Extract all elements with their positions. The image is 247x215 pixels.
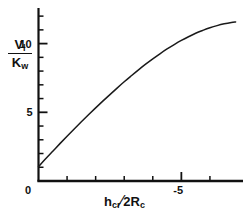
y-axis-major-ticks bbox=[39, 44, 48, 113]
x-axis-label: hcr⁄2Rc bbox=[104, 191, 145, 211]
x-axis-label-second-symbol: 2R bbox=[123, 194, 140, 209]
x-axis-label-second-subscript: c bbox=[140, 200, 145, 210]
y-tick-label-5: 5 bbox=[27, 106, 33, 118]
y-axis-label-fraction-bar bbox=[8, 53, 32, 54]
x-axis-label-slash: ⁄ bbox=[120, 192, 123, 212]
data-series-line bbox=[39, 22, 236, 167]
y-axis-label-denominator-subscript: w bbox=[21, 61, 28, 71]
x-axis-label-first-symbol: h bbox=[104, 194, 112, 209]
plot-canvas bbox=[0, 0, 247, 215]
y-axis-label-denominator-symbol: K bbox=[12, 55, 21, 70]
x-tick-label-neg5: -5 bbox=[173, 184, 183, 196]
y-axis-label-denominator: Kw bbox=[4, 56, 36, 69]
axis-lines bbox=[37, 8, 243, 182]
figure-container: Vl Kw hcr⁄2Rc 0510-5 bbox=[0, 0, 247, 215]
x-axis-label-first-subscript: cr bbox=[112, 200, 121, 210]
y-tick-label-10: 10 bbox=[20, 38, 32, 50]
y-tick-label-0: 0 bbox=[25, 184, 31, 196]
